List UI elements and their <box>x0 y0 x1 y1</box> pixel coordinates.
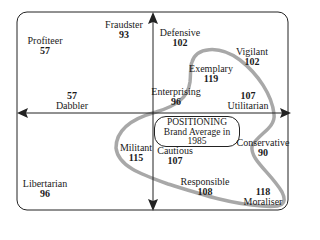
segment-exemplary: Exemplary 119 <box>189 64 233 84</box>
segment-utilitarian: 107 Utilitarian <box>227 91 268 111</box>
segment-responsible: Responsible 108 <box>181 177 230 197</box>
segment-cautious: Cautious 107 <box>157 146 193 166</box>
segment-defensive: Defensive 102 <box>160 28 201 48</box>
positioning-box: POSITIONING Brand Average in 1985 <box>154 116 240 147</box>
segment-fraudster: Fraudster 93 <box>105 20 143 40</box>
segment-profiteer: Profiteer 57 <box>28 36 63 56</box>
segment-militant: Militant 115 <box>120 143 152 163</box>
segment-vigilant: Vigilant 102 <box>236 47 268 67</box>
segment-moraliser: 118 Moraliser <box>244 187 283 207</box>
segment-conservative: Conservative 90 <box>237 138 290 158</box>
segment-enterprising: Enterprising 96 <box>151 87 200 107</box>
segment-libertarian: Libertarian 96 <box>23 179 67 199</box>
segment-dabbler: 57 Dabbler <box>56 91 88 111</box>
